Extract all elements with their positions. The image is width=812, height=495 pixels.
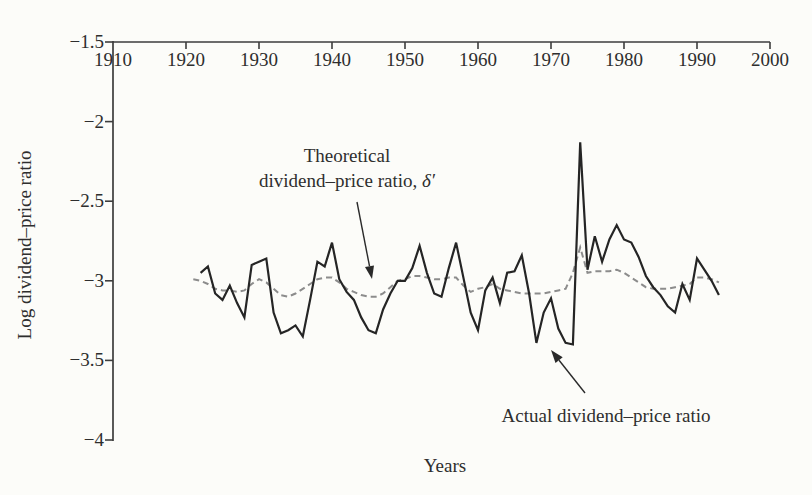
x-tick-label-1920: 1920: [156, 48, 216, 72]
annotation-theoretical-series: Theoretical dividend–price ratio, δ′: [227, 143, 467, 193]
annotation-arrow-theoretical-head: [365, 265, 374, 279]
x-tick-label-2000: 2000: [740, 48, 800, 72]
x-tick-label-1940: 1940: [302, 48, 362, 72]
annotation-theoretical-line2: dividend–price ratio, δ′: [227, 168, 467, 193]
theoretical-series-line: [193, 247, 719, 296]
annotation-actual-series: Actual dividend–price ratio: [476, 403, 736, 428]
delta-prime-symbol: δ′: [422, 170, 435, 191]
x-tick-label-1930: 1930: [229, 48, 289, 72]
y-tick-label--3: −3: [42, 269, 104, 293]
annotation-arrow-actual-head: [551, 350, 563, 363]
y-tick-label--1.5: −1.5: [42, 30, 104, 54]
y-axis-title: Log dividend–price ratio: [12, 125, 38, 365]
x-tick-label-1990: 1990: [667, 48, 727, 72]
y-tick-label--3.5: −3.5: [42, 348, 104, 372]
annotation-arrow-theoretical-line: [357, 202, 370, 266]
x-tick-label-1980: 1980: [594, 48, 654, 72]
annotation-arrow-actual-line: [559, 360, 585, 393]
x-tick-label-1950: 1950: [375, 48, 435, 72]
y-tick-label--2.5: −2.5: [42, 189, 104, 213]
x-tick-label-1970: 1970: [521, 48, 581, 72]
annotation-theoretical-line1: Theoretical: [227, 143, 467, 168]
figure: Log dividend–price ratio Years Theoretic…: [0, 0, 812, 495]
x-axis-title: Years: [385, 455, 505, 477]
y-tick-label--4: −4: [42, 428, 104, 452]
annotation-theoretical-line2-text: dividend–price ratio,: [259, 170, 422, 191]
annotation-actual-label: Actual dividend–price ratio: [502, 405, 711, 426]
y-tick-label--2: −2: [42, 110, 104, 134]
x-tick-label-1960: 1960: [448, 48, 508, 72]
